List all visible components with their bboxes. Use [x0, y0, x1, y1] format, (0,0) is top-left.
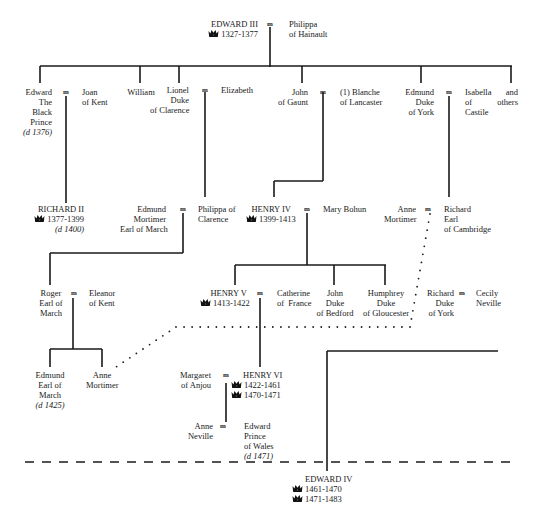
name-line: of	[465, 97, 491, 107]
name-line: March	[34, 390, 66, 400]
person-roger: Roger Earl of March	[36, 288, 66, 318]
name-line: Lionel	[150, 85, 189, 95]
person-henry-iv: HENRY IV 1399-1413	[246, 204, 291, 224]
marriage-symbol: m	[304, 204, 310, 214]
marriage-symbol: m	[220, 421, 226, 431]
name-line: Duke	[150, 95, 189, 105]
dot	[207, 326, 209, 328]
name-line: of France	[277, 298, 311, 308]
name-line: of Anjou	[178, 380, 211, 390]
person-blanche-lancaster: (1) Blanche of Lancaster	[340, 87, 382, 107]
dot	[191, 326, 193, 328]
person-henry-v: HENRY V 1413-1422	[200, 288, 247, 308]
marriage-symbol: m	[267, 19, 273, 29]
name-line: Earl of	[34, 380, 66, 390]
person-philippa-hainault: Philippa of Hainault	[289, 19, 327, 39]
name-line: of York	[404, 107, 434, 117]
person-philippa-clarence: Philippa of Clarence	[198, 204, 236, 224]
name-line: March	[36, 308, 66, 318]
person-anne-mortimer-2: Anne Mortimer	[86, 370, 118, 390]
name-line: Mortimer	[120, 214, 166, 224]
name-line: Cecily	[476, 288, 501, 298]
name-line: of Gloucester	[363, 308, 409, 318]
name-line: Neville	[476, 298, 501, 308]
reign-dates: 1471-1483	[305, 494, 342, 504]
reign-dates: 1413-1422	[213, 298, 250, 308]
name-line: Clarence	[198, 214, 236, 224]
name-line: Philippa	[289, 19, 327, 29]
death-date: (d 1471)	[244, 451, 274, 461]
dot	[369, 326, 371, 328]
crown-icon	[292, 494, 303, 503]
dot	[353, 326, 355, 328]
king-name: HENRY VI	[231, 370, 282, 380]
person-richard-ii: RICHARD II 1377-1399 (d 1400)	[30, 204, 84, 234]
dot	[385, 326, 387, 328]
name-line: of Hainault	[289, 29, 327, 39]
dot	[377, 326, 379, 328]
name-line: (1) Blanche	[340, 87, 382, 97]
name-line: of Bedford	[315, 308, 355, 318]
name-line: Edward	[16, 87, 52, 97]
dot	[422, 253, 424, 255]
crown-icon	[292, 484, 303, 493]
dot	[419, 270, 421, 272]
king-name: HENRY IV	[246, 204, 291, 214]
person-edmund-march: Edmund Earl of March (d 1425)	[34, 370, 66, 410]
crown-icon	[231, 380, 242, 389]
name-line: Isabella	[465, 87, 491, 97]
name-line: Prince	[16, 117, 52, 127]
reign-dates: 1327-1377	[221, 29, 258, 39]
person-joan-kent: Joan of Kent	[82, 87, 108, 107]
dot	[122, 361, 124, 363]
dot	[304, 326, 306, 328]
person-black-prince: Edward The Black Prince (d 1376)	[16, 87, 52, 137]
name-line: others	[494, 97, 518, 107]
name-line: Black	[16, 107, 52, 117]
dot	[224, 326, 226, 328]
death-date: (d 1400)	[30, 224, 84, 234]
person-mary-bohun: Mary Bohun	[323, 204, 366, 214]
dot	[412, 310, 414, 312]
name-line: Anne	[186, 421, 213, 431]
name-line: of Clarence	[150, 105, 189, 115]
dot	[423, 245, 425, 247]
name-line: Duke	[315, 298, 355, 308]
person-john-gaunt: John of Gaunt	[278, 87, 308, 107]
dot	[411, 318, 413, 320]
crown-icon	[200, 298, 211, 307]
name-line: Earl	[444, 214, 491, 224]
person-richard-york: Richard Duke of York	[422, 288, 454, 318]
dot	[175, 326, 177, 328]
name-line: Earl of	[36, 298, 66, 308]
dot	[183, 326, 185, 328]
name-line: The	[16, 97, 52, 107]
marriage-symbol: m	[459, 288, 465, 298]
person-henry-vi: HENRY VI 1422-1461 1470-1471	[231, 370, 282, 400]
family-tree-diagram: EDWARD III 1327-1377 m Philippa of Haina…	[0, 0, 539, 529]
reign-dates: 1461-1470	[305, 484, 342, 494]
dot	[215, 326, 217, 328]
name-line: John	[278, 87, 308, 97]
dot	[129, 357, 131, 359]
person-edmund-mortimer: Edmund Mortimer Earl of March	[120, 204, 166, 234]
dot	[272, 326, 274, 328]
person-isabella-castile: Isabella of Castile	[465, 87, 491, 117]
king-name: EDWARD III	[206, 19, 258, 29]
dot	[320, 326, 322, 328]
name-line: of Kent	[82, 97, 108, 107]
marriage-symbol: m	[180, 204, 186, 214]
dot	[393, 326, 395, 328]
name-line: Duke	[404, 97, 434, 107]
person-richard-cambridge: Richard Earl of Cambridge	[444, 204, 491, 234]
name-line: of Wales	[244, 441, 274, 451]
dot	[280, 326, 282, 328]
name-line: Humphrey	[363, 288, 409, 298]
name-line: Catherine	[277, 288, 311, 298]
crown-icon	[34, 214, 45, 223]
name-line: Richard	[422, 288, 454, 298]
person-elizabeth: Elizabeth	[221, 85, 253, 95]
king-name: RICHARD II	[30, 204, 84, 214]
name-line: Prince	[244, 431, 274, 441]
marriage-symbol: m	[425, 204, 431, 214]
